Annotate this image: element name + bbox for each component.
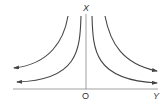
origin-label: O (82, 92, 89, 101)
curve-inner-left (17, 16, 81, 82)
curve-inner-right (92, 16, 157, 83)
vertical-axis-label: X (83, 4, 89, 13)
curve-outer-left (14, 16, 68, 68)
horizontal-axis-label: Y (153, 92, 159, 101)
curve-outer-right (105, 16, 157, 71)
